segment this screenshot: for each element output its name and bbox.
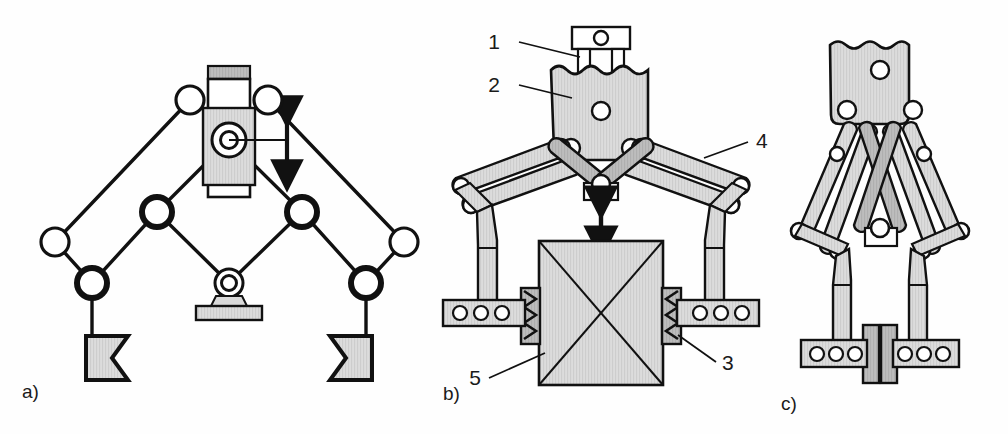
callout-label-1: 1 (488, 30, 500, 53)
body-hole-left-c (838, 101, 856, 119)
center-pin-b (592, 175, 610, 193)
leg-c-right (909, 249, 927, 342)
body-hole-center (592, 102, 610, 120)
plate-hole-r2 (714, 306, 728, 320)
ground-base (196, 306, 262, 320)
callout-label-5: 5 (469, 366, 481, 389)
joint-right-outer (390, 228, 418, 256)
rod-pin-hole (594, 31, 608, 45)
pin-c-r1 (917, 147, 931, 161)
plate-hole-l1 (453, 306, 467, 320)
subfigure-label-c: c) (781, 393, 797, 414)
joint-top-left (176, 86, 204, 114)
slider-block (203, 108, 255, 185)
plate-hole-cr3 (936, 347, 950, 361)
callout-label-3: 3 (722, 351, 734, 374)
center-pin-c (871, 219, 889, 237)
subfigure-label-a: a) (22, 381, 39, 402)
plate-hole-l2 (474, 306, 488, 320)
guide-cap (208, 66, 250, 79)
callout-label-4: 4 (756, 129, 768, 152)
body-hole-right-c (904, 101, 922, 119)
pin-c-l1 (830, 147, 844, 161)
plate-hole-cr2 (917, 347, 931, 361)
workpiece (539, 241, 663, 385)
plate-hole-cr1 (898, 347, 912, 361)
technical-diagram-canvas: a) (0, 0, 1008, 434)
plate-hole-cl2 (829, 347, 843, 361)
plate-hole-r3 (735, 306, 749, 320)
plate-hole-r1 (693, 306, 707, 320)
plate-hole-cl3 (848, 347, 862, 361)
body-hole-center-c (871, 61, 889, 79)
joint-left-outer (41, 228, 69, 256)
callout-label-2: 2 (488, 73, 500, 96)
joint-top-right (254, 86, 282, 114)
ground-pin-inner (222, 276, 237, 291)
plate-hole-cl1 (810, 347, 824, 361)
joint-mid-left-ring (144, 199, 171, 226)
subfigure-label-b: b) (443, 383, 460, 404)
joint-mid-right-ring (289, 199, 316, 226)
joint-finger-left-ring (79, 270, 106, 297)
leg-c-left (833, 249, 851, 342)
plate-hole-l3 (495, 306, 509, 320)
figure-root: a) (0, 0, 1008, 434)
joint-finger-right-ring (353, 270, 380, 297)
